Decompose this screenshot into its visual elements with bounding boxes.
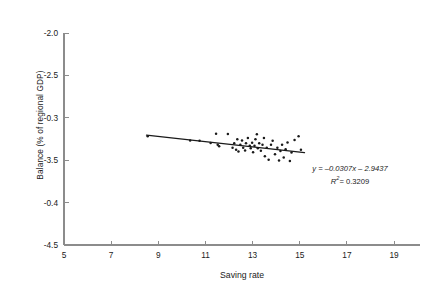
- plot-area: [0, 0, 432, 296]
- axis-ticks: [64, 33, 394, 245]
- axis-lines: [64, 33, 420, 245]
- data-points: [146, 132, 302, 162]
- regression-annotation: y = –0.0307x – 2.9437 R2= 0.3209: [296, 163, 404, 187]
- scatter-chart-figure: Balance (% of regional GDP) -2.0-2.5-0.3…: [0, 0, 432, 296]
- r-squared-value: = 0.3209: [339, 177, 369, 186]
- r-squared-line: R2= 0.3209: [296, 174, 404, 187]
- regression-equation: y = –0.0307x – 2.9437: [296, 163, 404, 174]
